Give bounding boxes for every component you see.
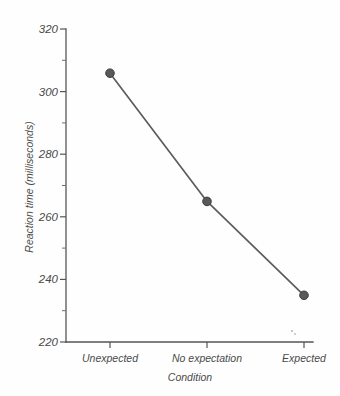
x-category-label-expected: Expected [282,352,327,364]
chart-figure: 320 300 280 260 240 220 [0,0,340,396]
scan-artifact [291,330,293,332]
data-point-marker [300,291,309,300]
line-chart: 320 300 280 260 240 220 [0,0,340,396]
y-tick-label-280: 280 [38,148,59,160]
x-axis-title: Condition [168,371,213,383]
data-point-marker [106,69,115,78]
x-category-label-unexpected: Unexpected [82,352,139,364]
y-tick-label-300: 300 [39,86,59,98]
scan-artifact [294,333,296,335]
x-category-label-no-expectation: No expectation [172,352,242,364]
y-axis-title: Reaction time (milliseconds) [23,121,35,252]
y-tick-label-260: 260 [38,211,59,223]
data-point-marker [203,197,212,206]
data-series-line [110,73,304,295]
y-tick-label-240: 240 [38,273,59,285]
y-tick-label-320: 320 [39,23,59,35]
y-tick-label-220: 220 [38,336,59,348]
